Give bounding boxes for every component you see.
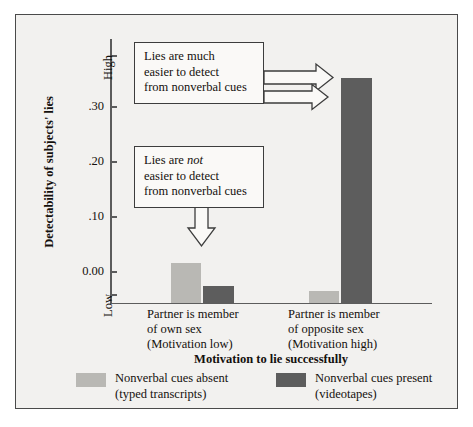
y-tick-high: High [110, 55, 117, 57]
bar-group2-cues-absent [309, 291, 339, 303]
callout-bottom-line1: Lies are not [144, 153, 254, 169]
group-label-opposite-sex: Partner is member of opposite sex (Motiv… [288, 307, 380, 352]
legend: Nonverbal cues absent (typed transcripts… [76, 371, 456, 405]
bar-group2-cues-present [341, 78, 372, 303]
y-tick-000: 0.00 [110, 271, 117, 273]
y-tick-low: Low [110, 294, 117, 296]
legend-item-cues-present: Nonverbal cues present (videotapes) [276, 371, 432, 402]
x-axis-title: Motivation to lie successfully [110, 352, 432, 367]
callout-bottom: Lies are not easier to detect from nonve… [134, 146, 264, 208]
legend-swatch-cues-present [276, 373, 306, 387]
y-tick-020: .20 [110, 161, 117, 163]
legend-swatch-cues-absent [76, 373, 106, 387]
x-axis-line [110, 303, 432, 305]
bar-group1-cues-present [203, 286, 234, 303]
y-axis-title: Detectability of subjects' lies [40, 39, 58, 304]
figure-panel: Detectability of subjects' lies High .30… [15, 14, 458, 409]
callout-top: Lies are much easier to detect from nonv… [134, 42, 264, 104]
y-tick-010: .10 [110, 216, 117, 218]
legend-item-cues-absent: Nonverbal cues absent (typed transcripts… [76, 371, 228, 402]
y-tick-030: .30 [110, 106, 117, 108]
group-label-own-sex: Partner is member of own sex (Motivation… [147, 307, 239, 352]
bar-group1-cues-absent [171, 263, 201, 303]
